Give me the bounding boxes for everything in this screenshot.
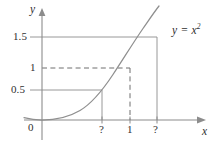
x-axis-label: x: [202, 126, 207, 138]
x-tick-label-1: 1: [127, 124, 133, 135]
curve-y-equals-x-squared: [24, 6, 159, 120]
y-axis-label: y: [30, 4, 35, 16]
origin-label: 0: [28, 122, 34, 133]
y-tick-label-0-5: 0.5: [11, 84, 25, 95]
y-tick-label-1: 1: [30, 62, 36, 73]
y-axis-arrow-icon: [39, 8, 46, 16]
x-tick-label-second-unknown: ?: [153, 124, 158, 135]
curve-equation-label: y = x2: [172, 25, 201, 37]
x-axis-arrow-icon: [197, 116, 206, 123]
y-tick-label-1-5: 1.5: [13, 31, 27, 42]
curve-equation-exponent: 2: [197, 22, 201, 31]
figure-container: y x 0 1.5 1 0.5 ? 1 ? y = x2: [0, 0, 215, 145]
x-tick-label-first-unknown: ?: [99, 124, 104, 135]
curve-equation-lhs: y =: [172, 24, 188, 36]
